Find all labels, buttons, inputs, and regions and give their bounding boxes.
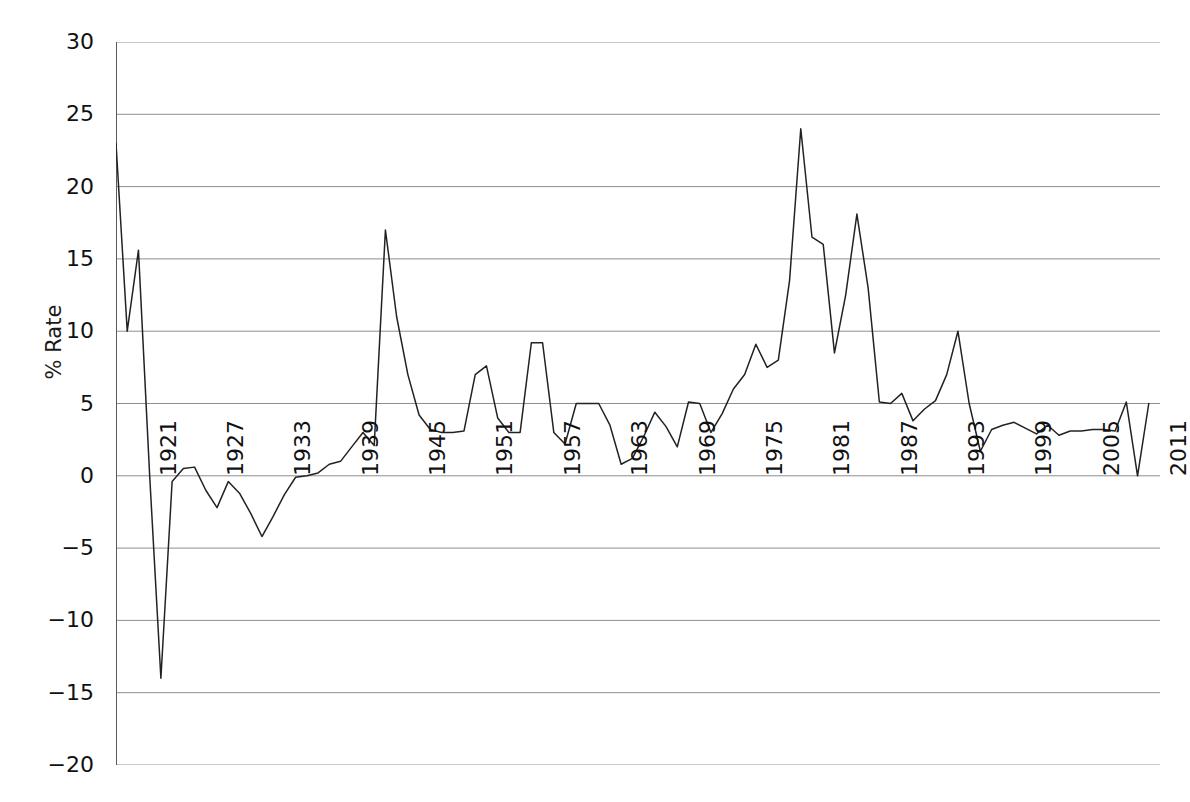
x-axis-tick-label: 1945 — [427, 420, 449, 476]
x-axis-tick-label: 1993 — [966, 420, 988, 476]
y-axis-tick-label: 20 — [16, 176, 94, 198]
x-axis-tick-label: 1987 — [899, 420, 921, 476]
y-axis-tick-labels: 302520151050−5−10−15−20 — [16, 0, 94, 802]
chart-root: % Rate 302520151050−5−10−15−20 192119271… — [0, 0, 1190, 802]
x-axis-tick-label: 2011 — [1168, 420, 1190, 476]
y-axis-tick-label: −15 — [16, 682, 94, 704]
y-axis-tick-label: 0 — [16, 465, 94, 487]
x-axis-tick-label: 1999 — [1033, 420, 1055, 476]
x-axis-tick-label: 1957 — [562, 420, 584, 476]
x-axis-tick-labels: 1921192719331939194519511957196319691975… — [116, 0, 1160, 802]
y-axis-tick-label: 10 — [16, 320, 94, 342]
x-axis-tick-label: 1969 — [697, 420, 719, 476]
x-axis-tick-label: 1963 — [629, 420, 651, 476]
x-axis-tick-label: 1921 — [158, 420, 180, 476]
x-axis-tick-label: 1981 — [831, 420, 853, 476]
x-axis-tick-label: 1975 — [764, 420, 786, 476]
y-axis-tick-label: 5 — [16, 393, 94, 415]
x-axis-tick-label: 1933 — [292, 420, 314, 476]
y-axis-tick-label: −10 — [16, 609, 94, 631]
x-axis-tick-label: 1939 — [360, 420, 382, 476]
y-axis-tick-label: −20 — [16, 754, 94, 776]
y-axis-tick-label: 15 — [16, 248, 94, 270]
x-axis-tick-label: 2005 — [1101, 420, 1123, 476]
y-axis-tick-label: 25 — [16, 103, 94, 125]
y-axis-tick-label: −5 — [16, 537, 94, 559]
x-axis-tick-label: 1951 — [494, 420, 516, 476]
y-axis-tick-label: 30 — [16, 31, 94, 53]
x-axis-tick-label: 1927 — [225, 420, 247, 476]
